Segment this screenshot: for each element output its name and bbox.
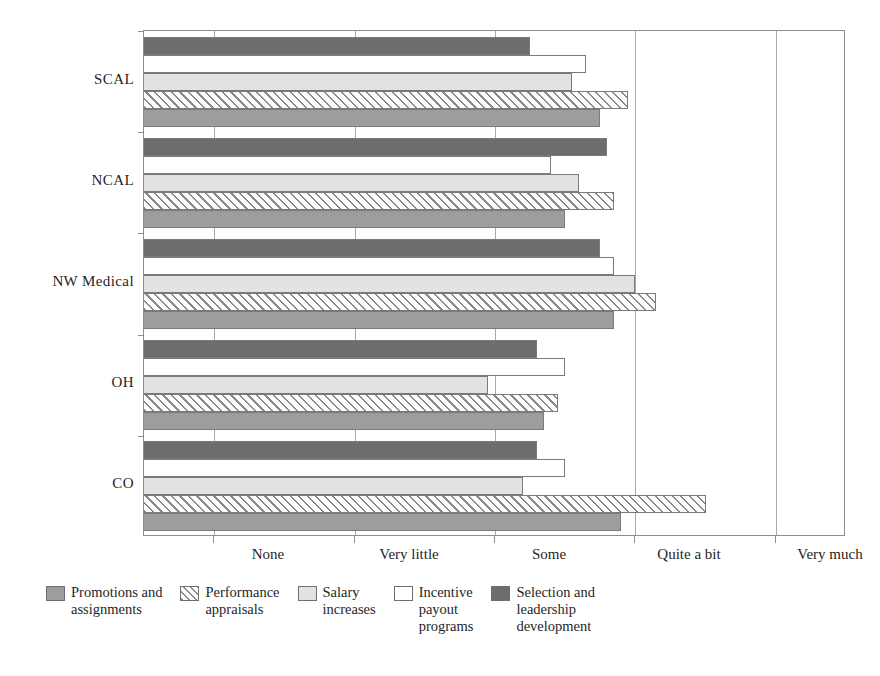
chart-legend: Promotions andassignmentsPerformanceappr… [46, 584, 846, 635]
legend-label-line: leadership [516, 601, 595, 618]
bar-row [144, 257, 844, 275]
legend-label-line: programs [419, 618, 474, 635]
y-tick [138, 436, 144, 437]
bar-row [144, 459, 844, 477]
bar-co-appraisals [144, 495, 706, 513]
legend-label-line: development [516, 618, 595, 635]
legend-item: Selection andleadershipdevelopment [491, 584, 595, 635]
x-tick [354, 536, 355, 543]
bar-row [144, 477, 844, 495]
bar-co-salary [144, 477, 523, 495]
y-tick [138, 132, 144, 133]
y-tick [138, 31, 144, 32]
bar-row [144, 174, 844, 192]
x-tick [213, 536, 214, 543]
bar-row [144, 495, 844, 513]
legend-label: Incentivepayoutprograms [419, 584, 474, 635]
bar-row [144, 376, 844, 394]
legend-label-line: Salary [323, 584, 376, 601]
bar-ncal-incentive [144, 156, 551, 174]
x-axis-label-quite-a-bit: Quite a bit [657, 546, 720, 563]
bar-row [144, 156, 844, 174]
legend-swatch-appraisals [180, 586, 199, 601]
legend-label-line: payout [419, 601, 474, 618]
plot-area [143, 30, 845, 536]
x-axis-label-some: Some [532, 546, 566, 563]
bar-row [144, 412, 844, 430]
bar-row [144, 275, 844, 293]
bar-row [144, 239, 844, 257]
bar-scal-appraisals [144, 91, 628, 109]
legend-swatch-promotions [46, 586, 65, 601]
bar-co-promotions [144, 513, 621, 531]
x-axis-label-very-much: Very much [797, 546, 862, 563]
legend-label-line: assignments [71, 601, 162, 618]
bar-row [144, 138, 844, 156]
legend-label: Promotions andassignments [71, 584, 162, 618]
y-tick [138, 233, 144, 234]
bar-row [144, 340, 844, 358]
legend-item: Incentivepayoutprograms [394, 584, 474, 635]
bar-ncal-appraisals [144, 192, 614, 210]
bar-oh-salary [144, 376, 488, 394]
legend-item: Performanceappraisals [180, 584, 279, 618]
bar-nw-medical-selection [144, 239, 600, 257]
y-axis-label-nw-medical: NW Medical [52, 273, 134, 290]
bar-co-incentive [144, 459, 565, 477]
bar-oh-promotions [144, 412, 544, 430]
bar-scal-selection [144, 37, 530, 55]
bar-row [144, 73, 844, 91]
y-tick [138, 335, 144, 336]
bar-oh-selection [144, 340, 537, 358]
bar-row [144, 91, 844, 109]
bar-oh-incentive [144, 358, 565, 376]
bar-row [144, 311, 844, 329]
bar-row [144, 394, 844, 412]
y-axis-label-scal: SCAL [94, 71, 134, 88]
y-axis-label-oh: OH [112, 374, 134, 391]
bar-scal-promotions [144, 109, 600, 127]
legend-label-line: increases [323, 601, 376, 618]
x-axis-label-none: None [252, 546, 285, 563]
legend-swatch-salary [298, 586, 317, 601]
x-axis-label-very-little: Very little [379, 546, 439, 563]
legend-label-line: Performance [205, 584, 279, 601]
bar-row [144, 37, 844, 55]
bar-co-selection [144, 441, 537, 459]
bar-row [144, 109, 844, 127]
bar-ncal-selection [144, 138, 607, 156]
bar-nw-medical-salary [144, 275, 635, 293]
legend-item: Promotions andassignments [46, 584, 162, 618]
bar-row [144, 358, 844, 376]
legend-label: Salaryincreases [323, 584, 376, 618]
x-tick [775, 536, 776, 543]
bar-nw-medical-promotions [144, 311, 614, 329]
legend-label: Performanceappraisals [205, 584, 279, 618]
bar-row [144, 441, 844, 459]
bar-row [144, 210, 844, 228]
legend-item: Salaryincreases [298, 584, 376, 618]
legend-label-line: Incentive [419, 584, 474, 601]
chart-figure: SCALNCALNW MedicalOHCO NoneVery littleSo… [0, 0, 880, 676]
legend-label-line: Promotions and [71, 584, 162, 601]
bar-row [144, 55, 844, 73]
bar-row [144, 513, 844, 531]
bar-row [144, 192, 844, 210]
legend-label-line: Selection and [516, 584, 595, 601]
x-tick [494, 536, 495, 543]
bar-ncal-promotions [144, 210, 565, 228]
legend-swatch-selection [491, 586, 510, 601]
bar-nw-medical-incentive [144, 257, 614, 275]
bar-ncal-salary [144, 174, 579, 192]
y-axis-label-ncal: NCAL [92, 172, 134, 189]
legend-swatch-incentive [394, 586, 413, 601]
bar-scal-incentive [144, 55, 586, 73]
bar-oh-appraisals [144, 394, 558, 412]
bar-scal-salary [144, 73, 572, 91]
y-axis-label-co: CO [112, 475, 134, 492]
bar-row [144, 293, 844, 311]
x-tick [634, 536, 635, 543]
bar-nw-medical-appraisals [144, 293, 656, 311]
legend-label: Selection andleadershipdevelopment [516, 584, 595, 635]
legend-label-line: appraisals [205, 601, 279, 618]
